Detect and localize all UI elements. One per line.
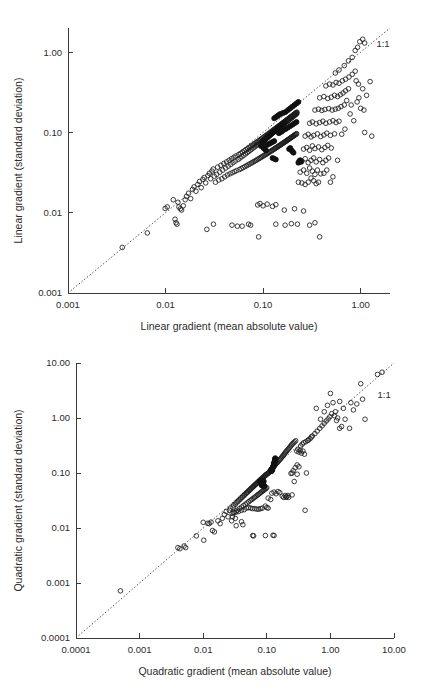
- data-point: [364, 93, 369, 98]
- data-point: [354, 78, 359, 83]
- data-point-dense: [273, 157, 278, 162]
- data-point: [351, 118, 356, 123]
- data-point: [337, 399, 342, 404]
- data-point-dense: [294, 119, 299, 124]
- data-point: [315, 168, 320, 173]
- data-point: [328, 391, 333, 396]
- x-tick-label: 0.001: [128, 644, 152, 655]
- data-point: [348, 112, 353, 117]
- data-point: [353, 48, 358, 53]
- data-point: [355, 45, 360, 50]
- data-point: [176, 200, 181, 205]
- data-point: [295, 472, 300, 477]
- data-point: [283, 223, 288, 228]
- data-point: [175, 222, 180, 227]
- data-point: [349, 400, 354, 405]
- data-point: [188, 196, 193, 201]
- data-point: [360, 397, 365, 402]
- data-point: [201, 520, 206, 525]
- reference-line-1to1: 1:1: [68, 28, 390, 293]
- y-tick-label: 10.00: [46, 357, 70, 368]
- data-point: [205, 227, 210, 232]
- x-tick-label: 1.00: [351, 299, 370, 310]
- data-point: [360, 86, 365, 91]
- data-point: [240, 224, 245, 229]
- data-point-dense: [263, 148, 268, 153]
- data-point: [282, 208, 287, 213]
- data-point: [328, 180, 333, 185]
- data-point: [256, 235, 261, 240]
- x-tick-label: 0.10: [254, 299, 273, 310]
- y-axis-title: Linear gradient (standard deviation): [12, 78, 24, 244]
- data-point: [357, 39, 362, 44]
- data-point: [343, 417, 348, 422]
- data-point: [120, 245, 125, 250]
- data-point-dense: [296, 99, 301, 104]
- data-point: [230, 223, 235, 228]
- y-tick-label: 0.10: [52, 467, 71, 478]
- x-tick-label: 1.00: [321, 644, 340, 655]
- data-point: [171, 197, 176, 202]
- data-point: [331, 400, 336, 405]
- data-point: [145, 231, 150, 236]
- y-tick-label: 0.10: [44, 127, 63, 138]
- data-point: [292, 479, 297, 484]
- data-point: [368, 79, 373, 84]
- data-point: [318, 417, 323, 422]
- data-point: [358, 381, 363, 386]
- data-point: [321, 160, 326, 165]
- x-tick-label: 10.00: [382, 644, 406, 655]
- data-point: [332, 132, 337, 137]
- data-point: [353, 69, 358, 74]
- data-point: [362, 41, 367, 46]
- reference-line-label: 1:1: [376, 38, 389, 49]
- data-point-dense: [272, 139, 277, 144]
- axes-group: 0.00010.0010.010.101.0010.000.00010.0010…: [41, 357, 406, 655]
- data-point: [337, 119, 342, 124]
- y-tick-label: 0.01: [52, 522, 71, 533]
- x-tick-label: 0.0001: [61, 644, 90, 655]
- data-point: [310, 144, 315, 149]
- y-axis-title: Quadratic gradient (standard deviation): [12, 409, 24, 591]
- data-point: [325, 168, 330, 173]
- data-point: [303, 508, 308, 513]
- data-point: [369, 134, 374, 139]
- y-tick-label: 0.01: [44, 207, 63, 218]
- data-points-group: [120, 37, 374, 250]
- data-point-dense: [271, 463, 276, 468]
- data-point: [331, 175, 336, 180]
- data-point: [322, 409, 327, 414]
- data-point: [354, 402, 359, 407]
- data-point: [335, 158, 340, 163]
- data-point: [304, 171, 309, 176]
- data-point: [309, 176, 314, 181]
- figure-root: 1:1 0.0010.010.101.000.0010.010.101.00 L…: [0, 0, 421, 696]
- data-point: [313, 220, 318, 225]
- x-tick-label: 0.001: [56, 299, 80, 310]
- data-point: [289, 221, 294, 226]
- data-point: [311, 178, 316, 183]
- data-point: [274, 222, 279, 227]
- data-point: [234, 523, 239, 528]
- data-point: [307, 223, 312, 228]
- data-point-dense: [273, 456, 278, 461]
- data-point: [375, 372, 380, 377]
- data-point: [344, 98, 349, 103]
- data-point-dense: [291, 150, 296, 155]
- reference-line-label: 1:1: [377, 389, 390, 400]
- data-point: [292, 206, 297, 211]
- data-point: [211, 222, 216, 227]
- x-tick-label: 0.10: [258, 644, 277, 655]
- data-point: [226, 514, 231, 519]
- data-point: [118, 589, 123, 594]
- data-point: [314, 406, 319, 411]
- data-point: [325, 403, 330, 408]
- data-point: [181, 203, 186, 208]
- data-point: [317, 235, 322, 240]
- data-point: [295, 222, 300, 227]
- data-point: [356, 82, 361, 87]
- data-point: [347, 426, 352, 431]
- data-point: [339, 132, 344, 137]
- data-point: [363, 417, 368, 422]
- x-axis-title: Quadratic gradient (mean absolute value): [138, 665, 331, 677]
